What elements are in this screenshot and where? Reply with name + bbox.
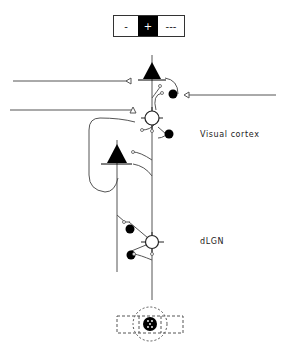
visual-cortex-label: Visual cortex [200, 130, 259, 139]
circuit-diagram [0, 0, 290, 352]
layer6-pyramidal-cell [107, 144, 127, 163]
dlgn-inhibitory-1 [126, 225, 135, 234]
inhibitory-interneuron-1 [169, 90, 178, 99]
receptive-field [117, 307, 183, 341]
synapse-icon [184, 92, 189, 98]
pyramidal-cell-top [143, 62, 161, 79]
dlgn-relay-cell [146, 236, 159, 249]
stellate-cell [145, 111, 159, 125]
synapse-icon [126, 78, 131, 84]
inhibitory-interneuron-2 [165, 130, 174, 139]
dlgn-label: dLGN [200, 237, 224, 246]
